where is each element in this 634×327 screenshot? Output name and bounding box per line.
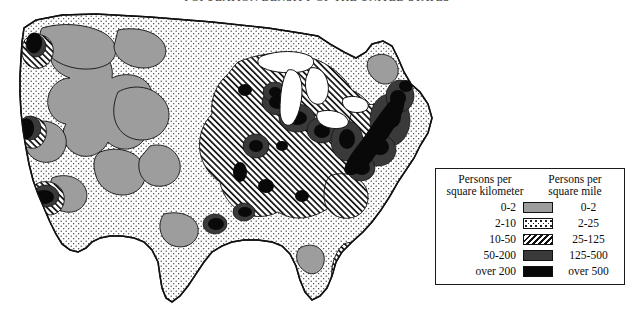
legend-swatch-diagonal-hatch — [523, 234, 553, 245]
legend-row: 0-2 0-2 — [442, 199, 618, 215]
region-density-over-200 — [258, 179, 274, 193]
legend-row: 10-50 25-125 — [442, 231, 618, 247]
legend-value-km: 2-10 — [442, 217, 523, 229]
region-density-over-200 — [383, 106, 401, 128]
region-density-over-200 — [390, 90, 406, 106]
legend-header-metric: Persons per square kilometer — [442, 173, 528, 197]
legend-box: Persons per square kilometer Persons per… — [435, 168, 625, 285]
legend-header-imperial: Persons per square mile — [532, 173, 618, 197]
legend-value-km: 0-2 — [442, 201, 523, 213]
region-density-over-200 — [276, 141, 288, 151]
legend-header-metric-line1: Persons per — [442, 173, 528, 185]
legend-value-mile: over 500 — [553, 265, 618, 277]
legend-row: 2-10 2-25 — [442, 215, 618, 231]
region-density-over-200 — [238, 207, 252, 217]
region-density-0-2 — [24, 205, 46, 232]
region-density-over-200 — [208, 218, 224, 230]
region-density-over-200 — [238, 84, 252, 96]
map-page: Population Density of the United States — [0, 0, 634, 327]
legend-value-mile: 2-25 — [553, 217, 618, 229]
legend-swatch-solid-black — [523, 266, 553, 277]
legend-value-km: 10-50 — [442, 233, 523, 245]
legend-value-km: 50-200 — [442, 249, 523, 261]
region-density-over-200 — [339, 129, 355, 149]
legend-value-mile: 125-500 — [553, 249, 618, 261]
legend-rows: 0-2 0-2 2-10 2-25 10-50 25-125 50-200 12… — [442, 199, 618, 279]
legend-header-imperial-line2: square mile — [532, 185, 618, 197]
legend-header-imperial-line1: Persons per — [532, 173, 618, 185]
legend-row: 50-200 125-500 — [442, 247, 618, 263]
map-regions — [18, 14, 432, 302]
legend-header-metric-line2: square kilometer — [442, 185, 528, 197]
legend-swatch-stipple-dots — [523, 218, 553, 229]
lake-superior — [258, 52, 314, 73]
legend-value-km: over 200 — [442, 265, 523, 277]
legend-headers: Persons per square kilometer Persons per… — [442, 173, 618, 197]
region-density-over-200 — [295, 190, 309, 202]
legend-value-mile: 0-2 — [553, 201, 618, 213]
legend-value-mile: 25-125 — [553, 233, 618, 245]
region-density-over-200 — [233, 162, 247, 182]
legend-swatch-solid-light-gray — [523, 202, 553, 213]
legend-swatch-solid-dark-gray — [523, 250, 553, 261]
region-density-over-200 — [249, 140, 263, 152]
legend-row: over 200 over 500 — [442, 263, 618, 279]
region-density-over-200 — [269, 87, 281, 97]
region-density-over-200 — [371, 139, 389, 155]
region-density-over-200 — [354, 161, 370, 175]
region-density-over-200 — [399, 80, 413, 92]
